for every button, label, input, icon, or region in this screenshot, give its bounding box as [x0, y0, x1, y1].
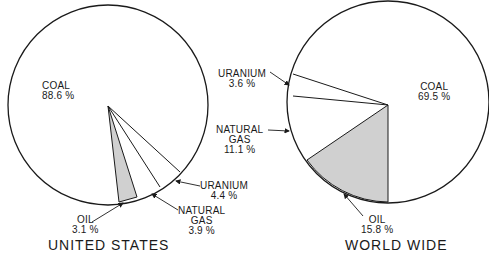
- world-uranium-leader: [270, 72, 289, 85]
- us-pie: [8, 5, 208, 222]
- world-coal-value: 69.5 %: [418, 92, 450, 102]
- world-pie: [268, 1, 489, 216]
- world-chart-title: WORLD WIDE: [345, 237, 448, 253]
- us-coal-label: COAL 88.6 %: [42, 81, 74, 101]
- world-oil-value: 15.8 %: [361, 225, 393, 235]
- us-pie-outline: [8, 5, 208, 205]
- us-uranium-value: 4.4 %: [200, 191, 248, 201]
- us-gas-value: 3.9 %: [178, 226, 225, 236]
- world-coal-label: COAL 69.5 %: [418, 82, 450, 102]
- world-uranium-value: 3.6 %: [218, 79, 266, 89]
- world-gas-label: NATURAL GAS 11.1 %: [216, 125, 263, 155]
- us-gas-label: NATURAL GAS 3.9 %: [178, 206, 225, 236]
- us-coal-value: 88.6 %: [42, 91, 74, 101]
- world-uranium-label: URANIUM 3.6 %: [218, 69, 266, 89]
- us-gas-leader: [152, 194, 178, 210]
- us-oil-value: 3.1 %: [72, 225, 99, 235]
- world-oil-label: OIL 15.8 %: [361, 215, 393, 235]
- us-uranium-label: URANIUM 4.4 %: [200, 181, 248, 201]
- us-uranium-leader: [176, 181, 200, 186]
- us-chart-title: UNITED STATES: [48, 237, 169, 253]
- us-oil-label: OIL 3.1 %: [72, 215, 99, 235]
- world-gas-leader: [268, 130, 289, 131]
- world-gas-value: 11.1 %: [216, 145, 263, 155]
